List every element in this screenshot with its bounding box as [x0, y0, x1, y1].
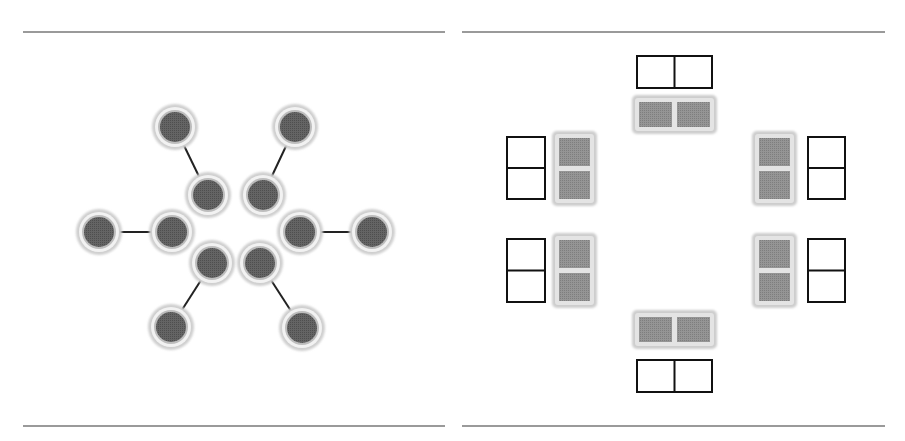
graph-node-outer-left — [76, 209, 122, 255]
seating-diagram — [507, 56, 845, 392]
graph-node-inner-top-right — [240, 172, 286, 218]
outline-box-bottom — [637, 360, 712, 392]
graph-node-inner-bottom-right — [237, 240, 283, 286]
gray-block-right-lower — [752, 233, 797, 308]
graph-edges — [99, 127, 372, 328]
outline-box-left-upper — [507, 137, 545, 199]
outline-box-right-lower — [808, 239, 845, 302]
outline-box-right-upper — [808, 137, 845, 199]
graph-node-inner-top-left — [185, 172, 231, 218]
graph-node-outer-right — [349, 209, 395, 255]
gray-block-left-lower — [552, 233, 597, 308]
graph-node-outer-top-left — [152, 104, 198, 150]
graph-nodes — [76, 104, 395, 351]
gray-block-right-upper — [752, 131, 797, 206]
network-graph — [76, 104, 395, 351]
outline-box-left-lower — [507, 239, 545, 302]
gray-block-left-upper — [552, 131, 597, 206]
graph-node-outer-top-right — [272, 104, 318, 150]
gray-blocks — [552, 95, 797, 349]
graph-node-inner-left — [149, 209, 195, 255]
diagram-canvas — [0, 0, 905, 441]
graph-node-outer-bottom-left — [148, 304, 194, 350]
gray-block-bottom — [632, 310, 717, 349]
outline-box-top — [637, 56, 712, 88]
graph-node-outer-bottom-right — [279, 305, 325, 351]
graph-node-inner-bottom-left — [189, 240, 235, 286]
gray-block-top — [632, 95, 717, 134]
graph-node-inner-right — [277, 209, 323, 255]
